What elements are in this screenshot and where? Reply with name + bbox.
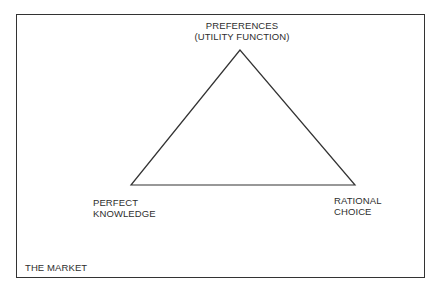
rational-choice-line-1: RATIONAL xyxy=(334,195,382,206)
rational-choice-line-2: CHOICE xyxy=(334,206,382,217)
perfect-knowledge-line-1: PERFECT xyxy=(93,197,156,208)
preferences-line-2: (UTILITY FUNCTION) xyxy=(190,31,294,42)
triangle-diagram xyxy=(0,0,438,291)
preferences-line-1: PREFERENCES xyxy=(190,20,294,31)
preferences-label: PREFERENCES (UTILITY FUNCTION) xyxy=(190,20,294,42)
perfect-knowledge-line-2: KNOWLEDGE xyxy=(93,208,156,219)
market-label: THE MARKET xyxy=(25,262,87,273)
rational-choice-label: RATIONAL CHOICE xyxy=(334,195,382,217)
triangle-shape xyxy=(131,50,355,185)
perfect-knowledge-label: PERFECT KNOWLEDGE xyxy=(93,197,156,219)
